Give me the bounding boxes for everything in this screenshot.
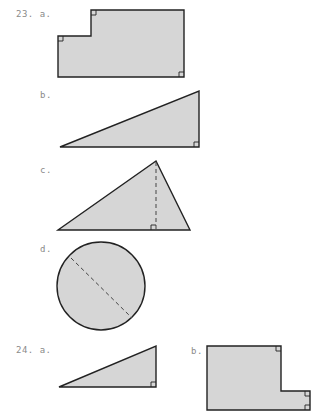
figure-24b-l-shape: [207, 346, 310, 410]
figure-23b-right-triangle: [60, 91, 199, 147]
figure-24a-right-triangle: [59, 346, 156, 387]
figures-canvas: [0, 0, 326, 416]
figure-23d-circle-diameter: [57, 242, 145, 330]
figure-23c-triangle-altitude: [58, 161, 190, 230]
figure-23a-l-shape: [58, 10, 184, 77]
